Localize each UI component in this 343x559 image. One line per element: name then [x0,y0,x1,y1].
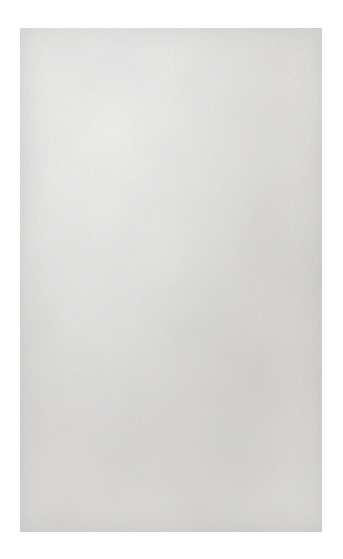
plate-page [0,0,343,559]
lithographic-plate-sheet [20,28,322,532]
paper-grain-texture [20,28,322,532]
